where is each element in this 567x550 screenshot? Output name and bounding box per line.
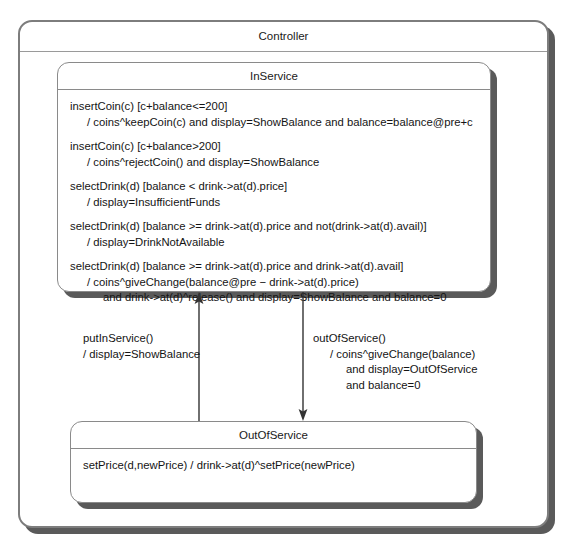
inservice-state-title: InService [58,63,490,90]
outofservice-transition-list: setPrice(d,newPrice) / drink->at(d)^setP… [71,449,476,480]
arrow-label-line: outOfService() [313,331,478,347]
arrow-label-line: putInService() [83,331,200,347]
outofservice-state-box[interactable]: OutOfService setPrice(d,newPrice) / drin… [70,421,477,503]
transition-insert-coin-accept: insertCoin(c) [c+balance<=200] / coins^k… [70,99,490,130]
arrow-label-out-of-service: outOfService() / coins^giveChange(balanc… [313,331,478,393]
transition-line: selectDrink(d) [balance >= drink->at(d).… [70,259,490,275]
transition-set-price: setPrice(d,newPrice) / drink->at(d)^setP… [83,458,476,474]
transition-line: and drink->at(d)^release() and display=S… [70,290,490,306]
transition-line: setPrice(d,newPrice) / drink->at(d)^setP… [83,458,476,474]
transition-line: insertCoin(c) [c+balance<=200] [70,99,490,115]
transition-select-drink-not-available: selectDrink(d) [balance >= drink->at(d).… [70,219,490,250]
arrow-label-line: / coins^giveChange(balance) [313,347,478,363]
inservice-transition-list: insertCoin(c) [c+balance<=200] / coins^k… [58,90,490,312]
outofservice-state-title: OutOfService [71,422,476,449]
transition-line: insertCoin(c) [c+balance>200] [70,139,490,155]
transition-select-drink-insufficient-funds: selectDrink(d) [balance < drink->at(d).p… [70,179,490,210]
transition-insert-coin-reject: insertCoin(c) [c+balance>200] / coins^re… [70,139,490,170]
arrow-label-line: / display=ShowBalance [83,347,200,363]
inservice-state-box[interactable]: InService insertCoin(c) [c+balance<=200]… [57,62,491,292]
arrow-label-put-in-service: putInService() / display=ShowBalance [83,331,200,362]
transition-select-drink-dispense: selectDrink(d) [balance >= drink->at(d).… [70,259,490,306]
controller-state-title: Controller [20,22,547,52]
transition-line: / coins^keepCoin(c) and display=ShowBala… [70,115,490,131]
arrow-label-line: and balance=0 [313,378,478,394]
transition-line: / display=InsufficientFunds [70,195,490,211]
transition-line: / coins^giveChange(balance@pre − drink->… [70,275,490,291]
transition-line: / coins^rejectCoin() and display=ShowBal… [70,155,490,171]
transition-line: selectDrink(d) [balance >= drink->at(d).… [70,219,490,235]
uml-state-diagram-canvas: Controller InService insertCoin(c) [c+ba… [0,0,567,550]
arrow-label-line: and display=OutOfService [313,362,478,378]
transition-line: / display=DrinkNotAvailable [70,235,490,251]
transition-line: selectDrink(d) [balance < drink->at(d).p… [70,179,490,195]
